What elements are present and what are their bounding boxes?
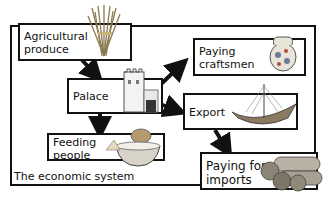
node-label: Palace: [73, 90, 109, 103]
sailing-ship-icon: [228, 82, 300, 132]
decorated-jug-icon: [266, 33, 300, 73]
diagram-title: The economic system: [14, 170, 134, 183]
node-label: Export: [189, 106, 225, 119]
timber-logs-icon: [256, 153, 326, 193]
arrow-agri-to-palace: [82, 60, 95, 74]
palace-tower-icon: [118, 64, 162, 114]
arrow-palace-to-craftsmen: [160, 66, 180, 85]
food-bowl-icon: [104, 128, 162, 168]
arrow-export-to-imports: [215, 130, 226, 148]
wheat-sheaf-icon: [84, 4, 124, 58]
